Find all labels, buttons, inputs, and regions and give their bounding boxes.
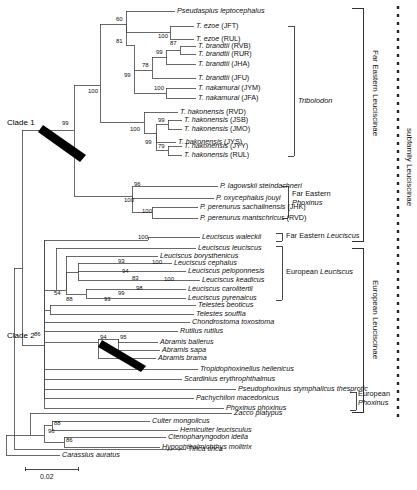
bootstrap-value: 54 [54, 290, 61, 296]
taxon-label: Tinca tinca [188, 445, 223, 453]
clade-1-label: Clade 1 [7, 118, 35, 127]
bootstrap-value: 88 [54, 420, 61, 426]
vertical-label-subfamily-leuciscinae: subfamily Leuciscinae [405, 128, 414, 206]
bootstrap-value: 81 [116, 38, 123, 44]
bootstrap-value: 88 [66, 296, 73, 302]
taxon-label: P. lagowskii steindachneri [220, 182, 302, 190]
clade-arrows [38, 125, 146, 372]
taxon-label: P. perenurus sachalinensis (JHK) [200, 203, 306, 211]
taxon-label: P. oxycephalus jouyi [216, 194, 281, 202]
bootstrap-value: 86 [66, 437, 73, 443]
taxon-label: T. hakonensis (RUL) [184, 151, 249, 159]
taxon-label: T. hakonensis (JYY) [184, 142, 248, 150]
taxon-label: T. brandtii (JHA) [198, 60, 250, 68]
taxon-label: Carassius auratus [62, 451, 120, 459]
bootstrap-value: 99 [118, 290, 125, 296]
group-label-european: European [358, 390, 390, 398]
taxon-label: Ctenopharyngodon idella [168, 433, 248, 441]
taxon-label: T. brandtii (RUR) [198, 50, 252, 58]
bootstrap-value: 60 [116, 16, 123, 22]
taxon-label: Pseudophoxinus stymphalicus thesprotic [238, 385, 368, 393]
bootstrap-value: 99 [124, 72, 131, 78]
taxon-label: T. nakamurai (JYM) [198, 84, 260, 92]
taxon-label: Scardinius erythrophthalmus [184, 375, 275, 383]
bootstrap-value: 93 [104, 296, 111, 302]
taxon-label: P. perenurus mantschricus (RVD) [200, 214, 306, 222]
scale-bar-label: 0.02 [40, 473, 54, 480]
scale-bar [25, 467, 78, 471]
bootstrap-value: 86 [34, 331, 41, 337]
bootstrap-value: 79 [158, 143, 165, 149]
bootstrap-value: 99 [145, 139, 152, 145]
taxon-label: T. hakonensis (JMO) [184, 125, 250, 133]
bootstrap-value: 99 [158, 117, 165, 123]
taxon-label: Leuciscus peloponnesis [188, 267, 264, 275]
taxon-label: T. hakonensis (JSB) [184, 116, 248, 124]
taxon-label: Pseudaspius leptocephalus [177, 7, 265, 15]
taxon-label: Tropidophoxinellus hellenicus [200, 365, 294, 373]
bootstrap-value: 96 [48, 428, 55, 434]
group-label-phoxinus: Phoxinus [292, 199, 322, 207]
taxon-label: Leuciscus carolitertii [188, 285, 253, 293]
group-label-tribolodon: Tribolodon [298, 97, 332, 105]
bootstrap-value: 100 [158, 33, 168, 39]
bootstrap-value: 100 [152, 259, 162, 265]
taxon-label: T. ezoe (JFT) [196, 22, 238, 30]
bootstrap-value: 78 [142, 62, 149, 68]
taxon-label: T. brandtii (JFU) [198, 74, 249, 82]
bootstrap-value: 100 [138, 234, 148, 240]
group-label-european-phoxinus: Phoxinus [358, 399, 388, 407]
taxon-label: Culter mongolicus [152, 417, 210, 425]
bootstrap-value: 94 [100, 334, 107, 340]
taxon-label: Pachychilon macedonicus [196, 394, 279, 402]
bootstrap-value: 95 [120, 334, 127, 340]
bootstrap-value: 100 [130, 126, 140, 132]
clade-2-label: Clade 2 [7, 331, 35, 340]
taxon-label: Chondrostoma toxostoma [192, 318, 274, 326]
bootstrap-value: 94 [122, 268, 129, 274]
phylogenetic-tree-figure: Pseudaspius leptocephalus T. ezoe (JFT) … [0, 0, 417, 490]
taxon-label: Rutilus rutilus [180, 327, 223, 335]
bootstrap-value: 100 [164, 276, 174, 282]
taxon-label: Zacco platypus [234, 409, 282, 417]
bootstrap-value: 83 [132, 275, 139, 281]
bootstrap-value: 100 [154, 85, 164, 91]
group-label-far-eastern-leuciscus: Far Eastern Leuciscus [286, 232, 360, 240]
taxon-label: Abramis brama [158, 354, 207, 362]
bootstrap-value: 99 [156, 49, 163, 55]
bootstrap-value: 100 [142, 208, 152, 214]
taxon-label: Leuciscus keadicus [202, 276, 264, 284]
taxon-label: Telestes beoticus [198, 301, 253, 309]
group-label-european-leuciscus: European Leuciscus [286, 268, 353, 276]
bootstrap-value: 93 [118, 258, 125, 264]
vertical-label-far-eastern-leuciscinae: Far Eastern Leuciscinae [371, 50, 380, 136]
vertical-label-european-leuciscinae: European Leuciscinae [371, 280, 380, 359]
bootstrap-value: 99 [62, 120, 69, 126]
bootstrap-value: 96 [134, 181, 141, 187]
group-label-far-eastern: Far Eastern [292, 190, 331, 198]
bootstrap-value: 100 [124, 197, 134, 203]
bootstrap-value: 87 [170, 40, 177, 46]
taxon-label: T. nakamurai (JFA) [198, 94, 258, 102]
bootstrap-value: 98 [136, 285, 143, 291]
bootstrap-value: 100 [88, 88, 98, 94]
taxon-label: Leuciscus waleckii [202, 233, 261, 241]
